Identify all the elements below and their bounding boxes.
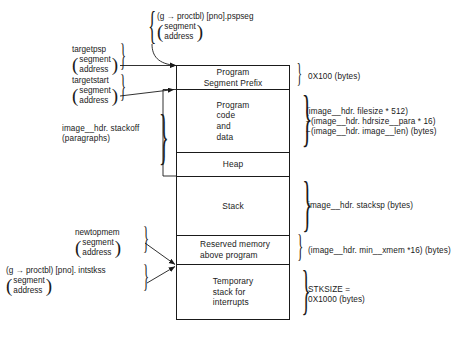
memory-block-psp: Program Segment Prefix bbox=[176, 65, 290, 90]
label-temp-size: STKSIZE = 0X1000 (bytes) bbox=[308, 285, 365, 305]
paren-open: ( bbox=[157, 27, 163, 36]
paren-open: ( bbox=[75, 243, 81, 252]
memory-layout-diagram: Program Segment Prefix Program code and … bbox=[0, 0, 474, 346]
label-stackoff-qualifier: (paragraphs) bbox=[62, 134, 110, 143]
brace-newtopmem: } bbox=[143, 223, 149, 254]
label-targetstart-qualifier: ( segment address ) bbox=[72, 86, 118, 106]
memory-block-reserved: Reserved memory above program bbox=[176, 235, 290, 265]
memory-block-heap: Heap bbox=[176, 152, 290, 177]
label-newtopmem: newtopmem ( segment address ) bbox=[75, 228, 121, 259]
paren-open: ( bbox=[72, 91, 78, 100]
brace-targetstart: } bbox=[120, 71, 126, 102]
paren-close: ) bbox=[46, 281, 52, 290]
paren-close: ) bbox=[112, 91, 118, 100]
memory-block-code: Program code and data bbox=[176, 89, 290, 153]
label-intstkss-name: (g → proctbl) [pno]. intstkss bbox=[6, 266, 106, 276]
label-pspseg-name: (g → proctbl) [pno].pspseg bbox=[157, 12, 253, 22]
paren-open: ( bbox=[6, 281, 12, 290]
memory-block-reserved-label: Reserved memory above program bbox=[196, 239, 270, 260]
brace-stackoff: } bbox=[159, 107, 169, 168]
label-code-size: (image__hdr. filesize * 512) −(image__hd… bbox=[306, 107, 437, 138]
memory-block-code-label: Program code and data bbox=[217, 100, 250, 142]
paren-close: ) bbox=[115, 243, 121, 252]
memory-block-temp-stack: Temporary stack for interrupts bbox=[176, 264, 290, 320]
label-newtopmem-qualifier: ( segment address ) bbox=[75, 238, 121, 258]
paren-open: ( bbox=[72, 60, 78, 69]
memory-block-psp-label: Program Segment Prefix bbox=[204, 67, 263, 88]
paren-close: ) bbox=[112, 60, 118, 69]
label-intstkss: (g → proctbl) [pno]. intstkss ( segment … bbox=[6, 266, 106, 297]
label-targetpsp-qualifier: ( segment address ) bbox=[72, 55, 118, 75]
label-pspseg: (g → proctbl) [pno].pspseg ( segment add… bbox=[157, 12, 253, 43]
brace-intstkss: } bbox=[143, 261, 149, 292]
memory-block-stack: Stack bbox=[176, 176, 290, 236]
label-stackoff-name: image__hdr. stackoff bbox=[62, 124, 139, 133]
label-targetstart: targetstart ( segment address ) bbox=[72, 76, 118, 107]
label-stackoff: image__hdr. stackoff (paragraphs) bbox=[62, 124, 139, 144]
label-psp-size: 0X100 (bytes) bbox=[308, 72, 360, 82]
paren-close: ) bbox=[197, 27, 203, 36]
memory-block-temp-stack-label: Temporary stack for interrupts bbox=[213, 276, 253, 308]
brace-targetpsp: } bbox=[120, 40, 126, 71]
memory-block-heap-label: Heap bbox=[223, 159, 243, 170]
label-pspseg-qualifier: ( segment address ) bbox=[157, 22, 253, 42]
memory-block-stack-label: Stack bbox=[222, 201, 243, 212]
label-reserved-size: (image__hdr. min__xmem *16) (bytes) bbox=[308, 246, 451, 256]
label-intstkss-qualifier: ( segment address ) bbox=[6, 276, 106, 296]
brace-pspseg: { bbox=[148, 5, 156, 46]
label-targetpsp: targetpsp ( segment address ) bbox=[72, 45, 118, 76]
label-stack-size: image__hdr. stacksp (bytes) bbox=[308, 201, 413, 211]
